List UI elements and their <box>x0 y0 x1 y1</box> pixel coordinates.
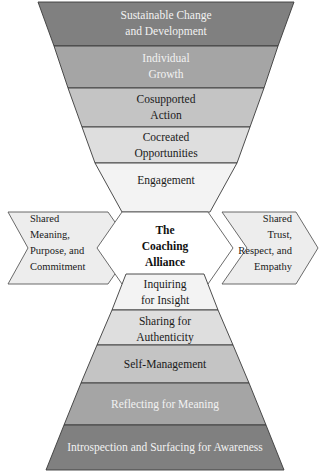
alliance-center-line-3: Alliance <box>145 256 185 268</box>
alliance-center-line-1: The <box>155 224 174 236</box>
alliance-band-group: Shared Meaning, Purpose, and Commitment … <box>8 212 318 284</box>
funnel-band-cosupported-action-line-1: Cosupported <box>137 93 196 106</box>
funnel-band-sustainable-change-line-1: Sustainable Change <box>120 9 211 22</box>
alliance-left-line-3: Purpose, and <box>30 245 85 256</box>
diagram-canvas: Sustainable Change and Development Indiv… <box>0 0 324 475</box>
funnel-band-cosupported-action-line-2: Action <box>150 109 182 121</box>
funnel-band-engagement <box>95 163 237 212</box>
pyramid-band-inquiring-for-insight-line-1: Inquiring <box>144 278 187 291</box>
pyramid-band-sharing-for-authenticity-line-1: Sharing for <box>139 315 191 328</box>
funnel-band-cocreated-opportunities-line-2: Opportunities <box>134 147 198 160</box>
funnel-band-engagement-line-1: Engagement <box>137 174 195 187</box>
alliance-right-line-3: Respect, and <box>238 245 292 256</box>
pyramid-band-introspection-and-surfacing-line-1: Introspection and Surfacing for Awarenes… <box>67 441 263 454</box>
alliance-center-line-2: Coaching <box>142 240 189 253</box>
alliance-right-line-4: Empathy <box>254 261 293 272</box>
pyramid-band-self-management-line-1: Self-Management <box>124 358 207 371</box>
pyramid-band-reflecting-for-meaning-line-1: Reflecting for Meaning <box>111 398 219 411</box>
alliance-right-line-2: Trust, <box>268 229 292 240</box>
pyramid-band-sharing-for-authenticity-line-2: Authenticity <box>136 331 194 344</box>
funnel-band-sustainable-change-line-2: and Development <box>125 25 207 38</box>
alliance-right-line-1: Shared <box>263 213 293 224</box>
alliance-left-line-4: Commitment <box>30 261 86 272</box>
alliance-left-line-1: Shared <box>30 213 60 224</box>
coaching-alliance-diagram: Sustainable Change and Development Indiv… <box>0 0 324 475</box>
lower-pyramid-group: Inquiring for Insight Sharing for Authen… <box>46 274 284 470</box>
upper-funnel-group: Sustainable Change and Development Indiv… <box>38 2 294 212</box>
alliance-left-line-2: Meaning, <box>30 229 70 240</box>
pyramid-band-inquiring-for-insight-line-2: for Insight <box>141 294 190 307</box>
funnel-band-individual-growth-line-1: Individual <box>142 52 189 64</box>
funnel-band-cocreated-opportunities-line-1: Cocreated <box>143 131 190 143</box>
funnel-band-individual-growth-line-2: Growth <box>148 68 183 80</box>
